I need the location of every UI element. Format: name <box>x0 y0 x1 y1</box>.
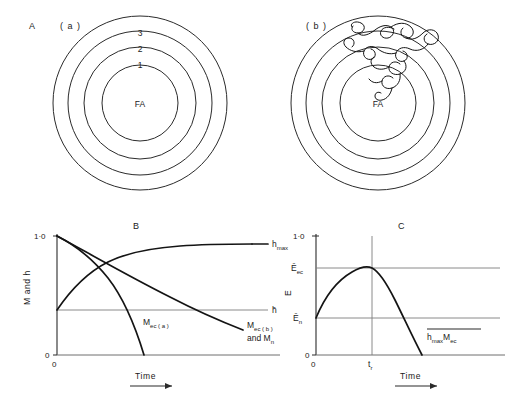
chartB-ytick-label-bottom: 0 <box>45 351 50 360</box>
core-label-fa-a: FA <box>135 99 146 109</box>
panel-letter-A: A <box>29 21 36 31</box>
chartB-ytick-label-top: 1·0 <box>34 232 46 241</box>
scientific-figure: A ( a ) 3 2 1 FA ( b ) FA B 1·0 0 0 <box>0 0 517 399</box>
panel-letter-C: C <box>398 221 405 231</box>
chartC-origin-label: 0 <box>311 360 316 369</box>
chartC-y-axis-title: E <box>283 290 293 296</box>
chartC-x-axis-title: Time <box>400 371 421 381</box>
panel-sublabel-a: ( a ) <box>60 21 81 31</box>
chartC-ytick-label-top: 1·0 <box>293 232 305 241</box>
chartC-ytick-label-bottom: 0 <box>305 351 310 360</box>
panel-sublabel-b: ( b ) <box>306 21 327 31</box>
chartB-label-and-mn: and Mn <box>247 333 274 345</box>
chartB-y-axis-title: M and h <box>22 270 32 305</box>
chartB-label-hbar: h̄ <box>272 305 277 315</box>
ring-number-3-a: 3 <box>138 28 143 38</box>
chartB-x-axis-title: Time <box>135 371 156 381</box>
figure-root: A ( a ) 3 2 1 FA ( b ) FA B 1·0 0 0 <box>0 0 517 399</box>
ring-number-2-a: 2 <box>138 44 143 54</box>
ring-number-1-a: 1 <box>138 60 143 70</box>
chartB-origin-label: 0 <box>52 360 57 369</box>
panel-letter-B: B <box>133 221 140 231</box>
